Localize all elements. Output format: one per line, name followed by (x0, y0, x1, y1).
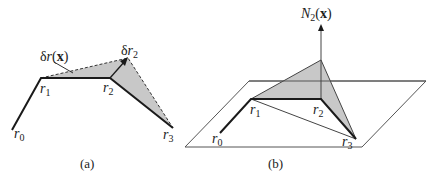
caption-b: (b) (268, 156, 283, 171)
label-r2: r2 (103, 80, 113, 97)
figure: δr(x) δr2 r0 r1 r2 r3 (a) N2(x) r0 r1 r2… (0, 0, 434, 179)
label-n2-x: N2(x) (300, 6, 332, 23)
label-r2: r2 (313, 102, 323, 119)
label-r3: r3 (163, 127, 173, 144)
label-r1: r1 (40, 81, 50, 98)
caption-a: (a) (80, 156, 94, 171)
label-delta-r2: δr2 (121, 43, 138, 60)
label-r0: r0 (212, 131, 222, 148)
panel-a: δr(x) δr2 r0 r1 r2 r3 (a) (12, 43, 173, 171)
label-r0: r0 (14, 126, 24, 143)
panel-b: N2(x) r0 r1 r2 r3 (b) (185, 6, 426, 171)
arrowhead-icon (318, 24, 324, 31)
label-r1: r1 (250, 102, 260, 119)
label-delta-r-x: δr(x) (40, 49, 69, 65)
